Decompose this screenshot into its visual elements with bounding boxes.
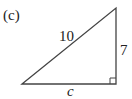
- base-leg-label: c: [67, 84, 74, 99]
- vertical-leg-label: 7: [120, 43, 128, 58]
- panel-label: (c): [3, 8, 20, 23]
- right-triangle-diagram: (c) 10 7 c: [0, 0, 132, 99]
- triangle-outline: [22, 8, 116, 84]
- right-angle-marker: [110, 78, 116, 84]
- hypotenuse-label: 10: [59, 29, 74, 44]
